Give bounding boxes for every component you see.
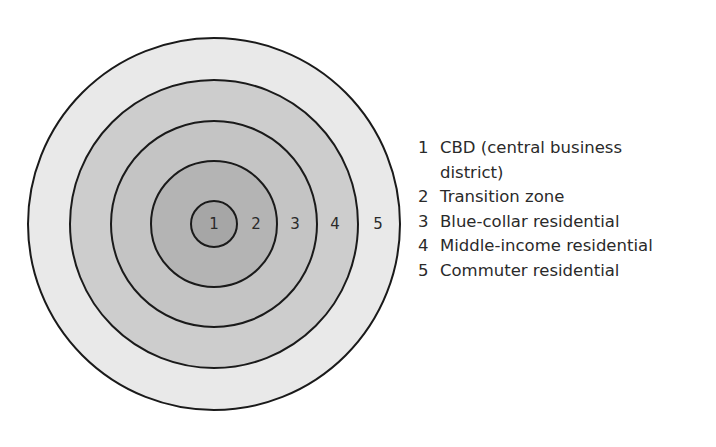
legend-label: CBD (central business district): [440, 136, 655, 185]
legend-number: 2: [418, 185, 440, 210]
zone-label-1: 1: [209, 215, 219, 233]
legend-item-blue-collar-residential: 3 Blue-collar residential: [418, 210, 716, 235]
zone-label-2: 2: [251, 215, 261, 233]
legend-label: Middle-income residential: [440, 234, 716, 259]
legend-item-commuter-residential: 5 Commuter residential: [418, 259, 716, 284]
zone-label-3: 3: [290, 215, 300, 233]
legend: 1 CBD (central business district) 2 Tran…: [418, 136, 716, 283]
legend-label: Commuter residential: [440, 259, 716, 284]
legend-number: 4: [418, 234, 440, 259]
legend-item-cbd: 1 CBD (central business district): [418, 136, 716, 185]
legend-label: Blue-collar residential: [440, 210, 716, 235]
legend-number: 5: [418, 259, 440, 284]
legend-item-transition-zone: 2 Transition zone: [418, 185, 716, 210]
legend-label: Transition zone: [440, 185, 716, 210]
zone-label-5: 5: [373, 215, 383, 233]
legend-item-middle-income-residential: 4 Middle-income residential: [418, 234, 716, 259]
legend-number: 1: [418, 136, 440, 185]
legend-number: 3: [418, 210, 440, 235]
zone-label-4: 4: [330, 215, 340, 233]
